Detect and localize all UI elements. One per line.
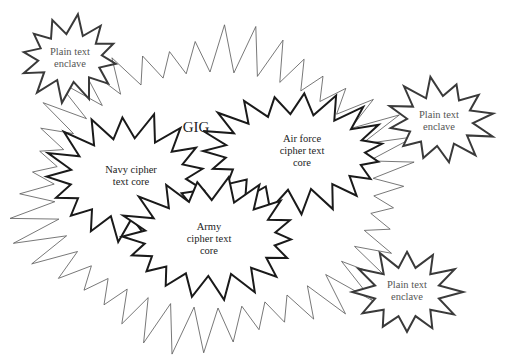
air-force-core-label: Air force cipher text core bbox=[280, 133, 325, 169]
enclave-label-right: Plain text enclave bbox=[419, 109, 459, 133]
enclave-label-top-left: Plain text enclave bbox=[50, 46, 90, 70]
navy-core-label: Navy cipher text core bbox=[105, 164, 157, 188]
gig-label: GIG bbox=[183, 119, 210, 135]
enclave-label-bottom-right: Plain text enclave bbox=[387, 279, 427, 303]
army-core-label: Army cipher text core bbox=[187, 221, 232, 257]
